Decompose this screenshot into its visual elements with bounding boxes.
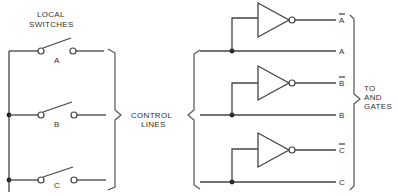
output-c-bar: C bbox=[339, 146, 345, 155]
control-lines-brace bbox=[188, 50, 200, 189]
output-b: B bbox=[339, 111, 345, 120]
svg-text:SWITCHES: SWITCHES bbox=[29, 20, 74, 29]
ground-rail bbox=[7, 51, 12, 192]
output-labels: A A B B C C bbox=[339, 14, 345, 187]
svg-text:CONTROL: CONTROL bbox=[131, 111, 172, 120]
output-c: C bbox=[339, 178, 345, 187]
switch-inverter-diagram: LOCAL SWITCHES A B C CONTROL bbox=[0, 0, 398, 196]
switches-brace bbox=[108, 49, 121, 190]
output-a-bar: A bbox=[339, 16, 345, 25]
to-and-gates-label: TO AND GATES bbox=[364, 84, 392, 111]
switch-b-label: B bbox=[54, 120, 60, 129]
svg-text:LOCAL: LOCAL bbox=[37, 10, 65, 19]
inverter-c-group bbox=[200, 133, 336, 184]
svg-text:GATES: GATES bbox=[364, 102, 392, 111]
switch-a: A bbox=[9, 38, 104, 65]
svg-text:TO: TO bbox=[364, 84, 376, 93]
and-gates-brace bbox=[350, 15, 360, 190]
inverter-a-group bbox=[200, 3, 336, 53]
svg-text:LINES: LINES bbox=[141, 120, 166, 129]
svg-text:AND: AND bbox=[364, 93, 382, 102]
output-a: A bbox=[339, 47, 345, 56]
output-b-bar: B bbox=[339, 79, 345, 88]
switch-c-label: C bbox=[54, 181, 60, 190]
switch-c: C bbox=[9, 167, 106, 190]
switch-a-label: A bbox=[54, 56, 60, 65]
local-switches-label: LOCAL SWITCHES bbox=[29, 10, 74, 29]
switch-b: B bbox=[9, 102, 106, 129]
inverter-b-group bbox=[200, 66, 336, 117]
control-lines-label: CONTROL LINES bbox=[131, 111, 172, 129]
